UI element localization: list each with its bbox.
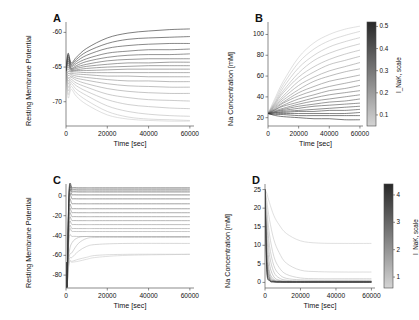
xtick-label-d: 60000 [351,292,391,299]
curve-d-1.9 [265,190,371,282]
ytick-label-d: 0 [232,278,261,285]
curve-d-4.4 [265,190,371,283]
curve-d-3.1 [265,190,371,283]
ytick-label-d: 10 [232,241,261,248]
xaxis-title-d: Time [sec] [280,301,360,310]
panel-d-axes-spine [265,184,375,288]
curve-d-2.3 [265,190,371,282]
curve-d-2.7 [265,190,371,282]
ytick-label-d: 25 [232,186,261,193]
curve-d-1.5 [265,190,371,282]
curve-d-1.2 [265,190,371,281]
ytick-label-d: 15 [232,223,261,230]
xtick-label-d: 40000 [316,292,356,299]
ytick-label-d: 5 [232,260,261,267]
xtick-label-d: 0 [245,292,285,299]
curve-d-0.9 [265,190,371,279]
curve-d-4.0 [265,190,371,283]
yaxis-title-d: Na Concentration [mM] [223,214,232,288]
colorbar-d [384,184,393,288]
curve-d-0.75 [265,190,371,272]
ytick-label-d: 20 [232,204,261,211]
curve-d-3.5 [265,190,371,283]
xtick-label-d: 20000 [280,292,320,299]
panel-letter-d: D [252,174,260,186]
curve-d-0.6 [265,190,371,244]
curve-d-1.05 [265,190,371,281]
